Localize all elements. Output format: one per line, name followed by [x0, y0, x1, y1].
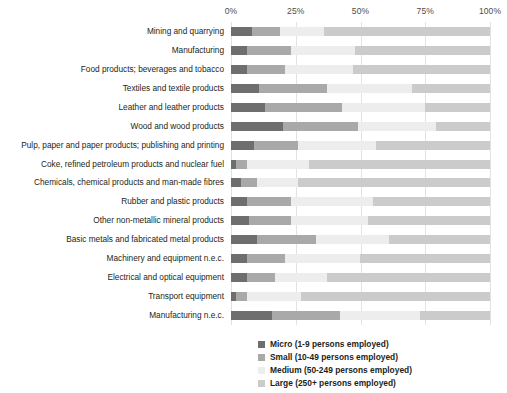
- bar-segment-large: [327, 273, 490, 282]
- bar-row: [231, 292, 490, 301]
- bar-segment-micro: [231, 254, 247, 263]
- category-label: Manufacturing n.e.c.: [149, 310, 224, 321]
- bar-segment-large: [309, 160, 490, 169]
- bar-segment-micro: [231, 178, 241, 187]
- bar-segment-small: [283, 122, 358, 131]
- bar-segment-large: [360, 254, 490, 263]
- bar-segment-small: [247, 273, 275, 282]
- category-label: Electrical and optical equipment: [107, 272, 224, 283]
- legend-label: Large (250+ persons employed): [270, 378, 396, 388]
- legend-swatch-large-icon: [258, 380, 265, 387]
- legend-item-medium[interactable]: Medium (50-249 persons employed): [258, 364, 498, 376]
- bar-segment-small: [236, 292, 246, 301]
- x-axis-tick-labels: 0%25%50%75%100%: [231, 6, 490, 20]
- bar-segment-small: [247, 46, 291, 55]
- bar-segment-medium: [340, 311, 420, 320]
- gridline-100: [490, 22, 491, 325]
- bar-segment-large: [412, 84, 490, 93]
- x-axis-tick-0: 0%: [225, 6, 238, 16]
- x-axis-tick-75: 75%: [417, 6, 434, 16]
- bar-segment-large: [373, 197, 490, 206]
- bar-segment-micro: [231, 197, 247, 206]
- bar-segment-large: [425, 103, 490, 112]
- category-label: Wood and wood products: [131, 121, 225, 132]
- legend-swatch-micro-icon: [258, 341, 265, 348]
- bar-row: [231, 160, 490, 169]
- chart-legend: Micro (1-9 persons employed)Small (10-49…: [258, 338, 498, 390]
- bar-segment-medium: [247, 292, 301, 301]
- bar-segment-large: [355, 46, 490, 55]
- bar-row: [231, 122, 490, 131]
- bar-segment-micro: [231, 84, 259, 93]
- bar-segment-small: [259, 84, 326, 93]
- bar-segment-medium: [285, 65, 352, 74]
- bar-segment-large: [353, 65, 490, 74]
- bar-row: [231, 197, 490, 206]
- legend-swatch-small-icon: [258, 354, 265, 361]
- bar-row: [231, 311, 490, 320]
- category-label: Leather and leather products: [118, 102, 224, 113]
- bar-row: [231, 141, 490, 150]
- category-label: Transport equipment: [148, 291, 224, 302]
- bar-segment-micro: [231, 103, 265, 112]
- category-label: Other non-metallic mineral products: [93, 215, 224, 226]
- bar-segment-small: [254, 141, 298, 150]
- x-axis-tick-25: 25%: [287, 6, 304, 16]
- bar-segment-medium: [327, 84, 412, 93]
- bar-segment-micro: [231, 311, 272, 320]
- bar-row: [231, 27, 490, 36]
- bar-segment-small: [272, 311, 339, 320]
- bar-row: [231, 216, 490, 225]
- bar-segment-medium: [358, 122, 436, 131]
- bar-segment-micro: [231, 122, 283, 131]
- bar-segment-medium: [275, 273, 327, 282]
- bar-segment-large: [324, 27, 490, 36]
- bar-row: [231, 178, 490, 187]
- legend-label: Micro (1-9 persons employed): [270, 339, 389, 349]
- legend-item-micro[interactable]: Micro (1-9 persons employed): [258, 338, 498, 350]
- bar-segment-medium: [298, 141, 376, 150]
- bar-segment-large: [420, 311, 490, 320]
- bar-segment-small: [252, 27, 280, 36]
- x-axis-tick-100: 100%: [479, 6, 501, 16]
- category-label: Chemicals, chemical products and man-mad…: [34, 177, 224, 188]
- bar-segment-large: [376, 141, 490, 150]
- category-label: Mining and quarrying: [147, 26, 224, 37]
- bar-segment-small: [265, 103, 343, 112]
- stacked-bar-chart: 0%25%50%75%100% Mining and quarryingManu…: [0, 0, 507, 393]
- bar-segment-small: [247, 65, 286, 74]
- bar-segment-medium: [291, 197, 374, 206]
- bar-segment-micro: [231, 216, 249, 225]
- bar-segment-medium: [291, 46, 356, 55]
- bar-segment-medium: [280, 27, 324, 36]
- x-axis-tick-50: 50%: [352, 6, 369, 16]
- bar-segment-large: [436, 122, 490, 131]
- bar-segment-medium: [285, 254, 360, 263]
- bar-row: [231, 235, 490, 244]
- bar-segment-small: [257, 235, 317, 244]
- category-label: Manufacturing: [172, 45, 224, 56]
- bar-segment-medium: [257, 178, 298, 187]
- bar-segment-small: [236, 160, 246, 169]
- bar-segment-medium: [291, 216, 369, 225]
- bar-segment-micro: [231, 273, 247, 282]
- legend-item-small[interactable]: Small (10-49 persons employed): [258, 351, 498, 363]
- plot-area: [231, 22, 490, 325]
- bar-row: [231, 254, 490, 263]
- bar-row: [231, 65, 490, 74]
- bar-segment-medium: [247, 160, 309, 169]
- legend-label: Small (10-49 persons employed): [270, 352, 398, 362]
- legend-item-large[interactable]: Large (250+ persons employed): [258, 377, 498, 389]
- category-label: Rubber and plastic products: [121, 196, 224, 207]
- bar-segment-micro: [231, 235, 257, 244]
- bar-row: [231, 46, 490, 55]
- bar-segment-small: [241, 178, 257, 187]
- category-label: Pulp, paper and paper products; publishi…: [21, 140, 224, 151]
- bar-row: [231, 273, 490, 282]
- bar-segment-micro: [231, 141, 254, 150]
- bar-segment-micro: [231, 65, 247, 74]
- category-label: Coke, refined petroleum products and nuc…: [41, 159, 224, 170]
- bar-segment-large: [298, 178, 490, 187]
- bar-segment-large: [301, 292, 490, 301]
- category-label: Textiles and textile products: [123, 83, 224, 94]
